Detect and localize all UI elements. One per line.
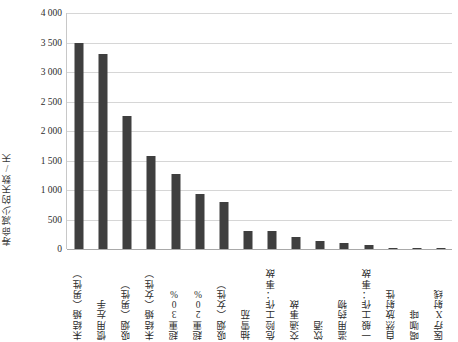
x-axis-category-label: 惯用左手: [96, 252, 109, 340]
x-axis-category-label: 超重30%: [168, 252, 181, 340]
bars-group: [67, 13, 452, 249]
bar-slot: [212, 13, 236, 249]
bar-slot: [236, 13, 260, 249]
x-axis-category-label: 交通事故: [289, 252, 302, 340]
bar[interactable]: [147, 156, 156, 249]
y-axis-tick-label: 2 000: [18, 126, 62, 136]
x-axis-category-label: 吸烟（男性）: [120, 252, 133, 340]
y-axis-tick-label: 1 000: [18, 185, 62, 195]
bar-slot: [357, 13, 381, 249]
x-axis-category-label: 一般工作：事故: [361, 252, 374, 340]
bar[interactable]: [340, 243, 349, 249]
bar-chart-figure: 寿命减少的天数/天 05001 0001 5002 0002 5003 0003…: [0, 0, 458, 342]
x-axis-category-label: 未结婚（女性）: [144, 252, 157, 340]
y-axis-tick-label: 3 000: [18, 67, 62, 77]
x-axis-category-label: 超重20%: [192, 252, 205, 340]
x-axis-category-label: 滥用药物: [337, 252, 350, 340]
bar-slot: [91, 13, 115, 249]
bar[interactable]: [99, 54, 108, 249]
bar[interactable]: [364, 245, 373, 249]
x-axis-category-label: 未结婚（男性）: [72, 252, 85, 340]
y-axis-tick-labels: 05001 0001 5002 0002 5003 0003 5004 000: [18, 6, 62, 256]
x-axis-category-label: 抽雪茄: [240, 252, 253, 340]
bar-slot: [139, 13, 163, 249]
x-axis-category-label: 吸烟（女性）: [216, 252, 229, 340]
bar[interactable]: [388, 248, 397, 249]
bar[interactable]: [75, 43, 84, 250]
bar-slot: [284, 13, 308, 249]
bar-slot: [308, 13, 332, 249]
bar[interactable]: [316, 241, 325, 249]
x-axis-category-labels: 未结婚（男性）惯用左手吸烟（男性）未结婚（女性）超重30%超重20%吸烟（女性）…: [66, 252, 452, 342]
y-axis-tick-label: 1 500: [18, 156, 62, 166]
bar[interactable]: [195, 194, 204, 249]
y-axis-tick-label: 500: [18, 215, 62, 225]
x-axis-category-label: 危险工作：事故: [265, 252, 278, 340]
bar-slot: [67, 13, 91, 249]
bar[interactable]: [292, 237, 301, 249]
bar-slot: [429, 13, 453, 249]
x-axis-category-label: 医疗X射线: [433, 252, 446, 340]
y-axis-tick-label: 4 000: [18, 8, 62, 18]
x-axis-category-label: 喝咖啡: [409, 252, 422, 340]
y-axis-title: 寿命减少的天数/天: [0, 96, 14, 246]
bar-slot: [405, 13, 429, 249]
y-axis-tick-label: 2 500: [18, 97, 62, 107]
bar[interactable]: [123, 116, 132, 249]
bar[interactable]: [243, 231, 252, 249]
plot-area: [66, 13, 452, 249]
x-axis-category-label: 饮酒: [313, 252, 326, 340]
axis-baseline: [67, 249, 452, 250]
bar[interactable]: [412, 248, 421, 249]
bar-slot: [188, 13, 212, 249]
bar-slot: [381, 13, 405, 249]
bar-slot: [332, 13, 356, 249]
bar-slot: [115, 13, 139, 249]
y-axis-tick-label: 0: [18, 244, 62, 254]
bar[interactable]: [171, 174, 180, 249]
bar[interactable]: [436, 248, 445, 249]
bar[interactable]: [268, 231, 277, 249]
bar-slot: [164, 13, 188, 249]
bar-slot: [260, 13, 284, 249]
bar[interactable]: [219, 202, 228, 249]
y-axis-tick-label: 3 500: [18, 38, 62, 48]
x-axis-category-label: 自然放射性: [385, 252, 398, 340]
